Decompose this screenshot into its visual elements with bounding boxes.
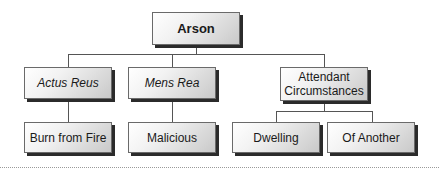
node-attendant-circumstances-label: Attendant Circumstances — [283, 70, 365, 98]
connector-attendant-up — [324, 54, 325, 67]
connector-mens-rea-down — [172, 100, 173, 122]
node-burn-from-fire-label: Burn from Fire — [30, 131, 107, 145]
node-of-another-label: Of Another — [342, 131, 399, 145]
node-actus-reus-label: Actus Reus — [37, 76, 98, 90]
connector-level1-bus — [68, 54, 325, 55]
connector-dwelling-up — [276, 111, 277, 122]
connector-attendant-down — [324, 101, 325, 111]
dotted-divider — [0, 167, 439, 168]
node-arson: Arson — [152, 12, 240, 45]
node-mens-rea-label: Mens Rea — [145, 76, 200, 90]
node-malicious-label: Malicious — [147, 131, 197, 145]
connector-level2-bus — [276, 111, 373, 112]
node-burn-from-fire: Burn from Fire — [24, 122, 112, 153]
connector-actus-reus-down — [68, 100, 69, 122]
connector-actus-reus-up — [68, 54, 69, 67]
node-dwelling: Dwelling — [232, 122, 320, 153]
node-arson-label: Arson — [177, 22, 215, 36]
arson-elements-diagram: Arson Actus Reus Mens Rea Attendant Circ… — [0, 0, 439, 169]
node-actus-reus: Actus Reus — [24, 67, 112, 99]
node-mens-rea: Mens Rea — [128, 67, 216, 99]
connector-mens-rea-up — [172, 54, 173, 67]
node-malicious: Malicious — [128, 122, 216, 153]
node-attendant-circumstances: Attendant Circumstances — [280, 67, 368, 101]
connector-of-another-up — [372, 111, 373, 122]
node-of-another: Of Another — [327, 122, 415, 153]
node-dwelling-label: Dwelling — [253, 131, 298, 145]
connector-root-down — [196, 45, 197, 54]
